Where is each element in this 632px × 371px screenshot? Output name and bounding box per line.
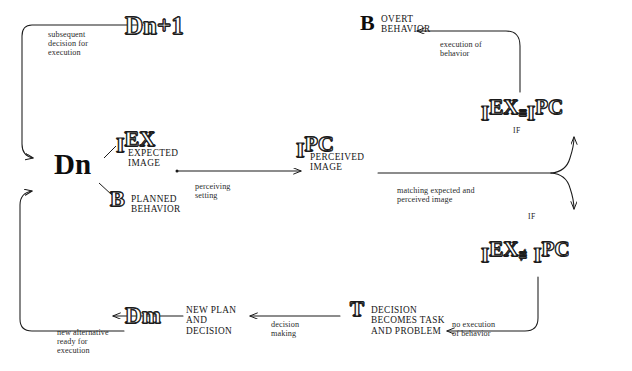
match-condition-if: IF (513, 126, 521, 135)
task-decision-label: DECISION BECOMES TASK AND PROBLEM (371, 305, 445, 336)
mismatch-operator: ≢ (518, 247, 533, 264)
mismatch-left-base: I (481, 243, 489, 267)
perceived-image-label: PERCEIVED IMAGE (310, 152, 364, 173)
match-left-sup: EX (489, 95, 518, 119)
tick-to-expected-image (104, 146, 116, 158)
diagram-canvas: Dn+1 subsequent decision for execution B… (0, 0, 632, 371)
node-planned-behavior: B (110, 186, 125, 212)
expected-image-base: I (116, 132, 125, 157)
decision-m-sub: m (142, 303, 161, 328)
annotation-matching: matching expected and perceived image (397, 186, 475, 204)
mismatch-right-sup: PC (542, 237, 570, 261)
decision-m-base: D (125, 303, 142, 328)
match-operator: ≡ (518, 105, 527, 122)
match-left-base: I (481, 101, 489, 125)
match-right-sup: PC (535, 95, 563, 119)
perceived-image-base: I (296, 137, 305, 162)
node-decision-m: Dm (125, 303, 161, 329)
tick-layer (0, 0, 632, 371)
mismatch-right-base: I (533, 243, 541, 267)
planned-behavior-label: PLANNED BEHAVIOR (131, 194, 181, 215)
match-right-base: I (527, 101, 535, 125)
node-task-decision: T (350, 297, 364, 322)
annotation-new-alternative: new alternative ready for execution (57, 328, 109, 356)
expected-image-label: EXPECTED IMAGE (128, 148, 178, 169)
mismatch-left-sup: EX (489, 237, 518, 261)
planned-behavior-base: B (110, 186, 125, 211)
comparison-mismatch: IEX≢IPC (481, 237, 570, 268)
annotation-decision-making: decision making (271, 320, 299, 338)
task-decision-base: T (350, 297, 364, 321)
new-plan-label: NEW PLAN AND DECISION (186, 305, 236, 336)
annotation-perceiving-setting: perceiving setting (195, 182, 231, 200)
annotation-no-execution: no execution of behavior (452, 320, 495, 338)
mismatch-condition-if: IF (528, 212, 536, 221)
comparison-match: IEX≡IPC (481, 95, 563, 126)
